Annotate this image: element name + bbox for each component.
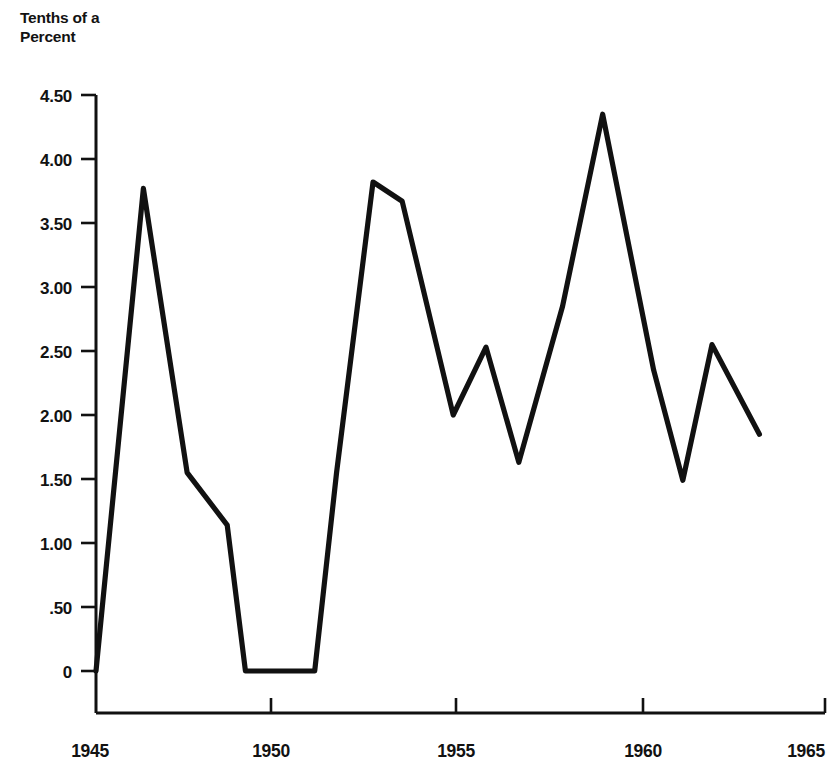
chart-page: Tenths of a Percent 4.50 4.00 3.50 3.00 … — [0, 0, 829, 778]
y-axis: 4.50 4.00 3.50 3.00 2.50 2.00 1.50 1.00 … — [40, 87, 96, 713]
x-tick-label-1960: 1960 — [624, 741, 662, 761]
x-tick-label-1945: 1945 — [71, 741, 109, 761]
data-series-line — [96, 114, 759, 671]
y-tick-label-4.00: 4.00 — [40, 151, 72, 170]
line-chart-plot: 4.50 4.00 3.50 3.00 2.50 2.00 1.50 1.00 … — [0, 0, 829, 778]
y-tick-label-3.50: 3.50 — [40, 215, 72, 234]
x-tick-label-1965: 1965 — [787, 741, 825, 761]
x-tick-label-1955: 1955 — [437, 741, 475, 761]
y-tick-label-3.00: 3.00 — [40, 279, 72, 298]
y-tick-label-4.50: 4.50 — [40, 87, 72, 106]
y-tick-label-0.50: .50 — [49, 599, 72, 618]
y-tick-label-2.00: 2.00 — [40, 407, 72, 426]
y-tick-label-1.00: 1.00 — [40, 535, 72, 554]
y-tick-label-1.50: 1.50 — [40, 471, 72, 490]
y-tick-label-0: 0 — [63, 663, 72, 682]
x-tick-label-1950: 1950 — [252, 741, 290, 761]
y-tick-label-2.50: 2.50 — [40, 343, 72, 362]
x-axis: 1945 1950 1955 1960 1965 — [71, 698, 825, 761]
